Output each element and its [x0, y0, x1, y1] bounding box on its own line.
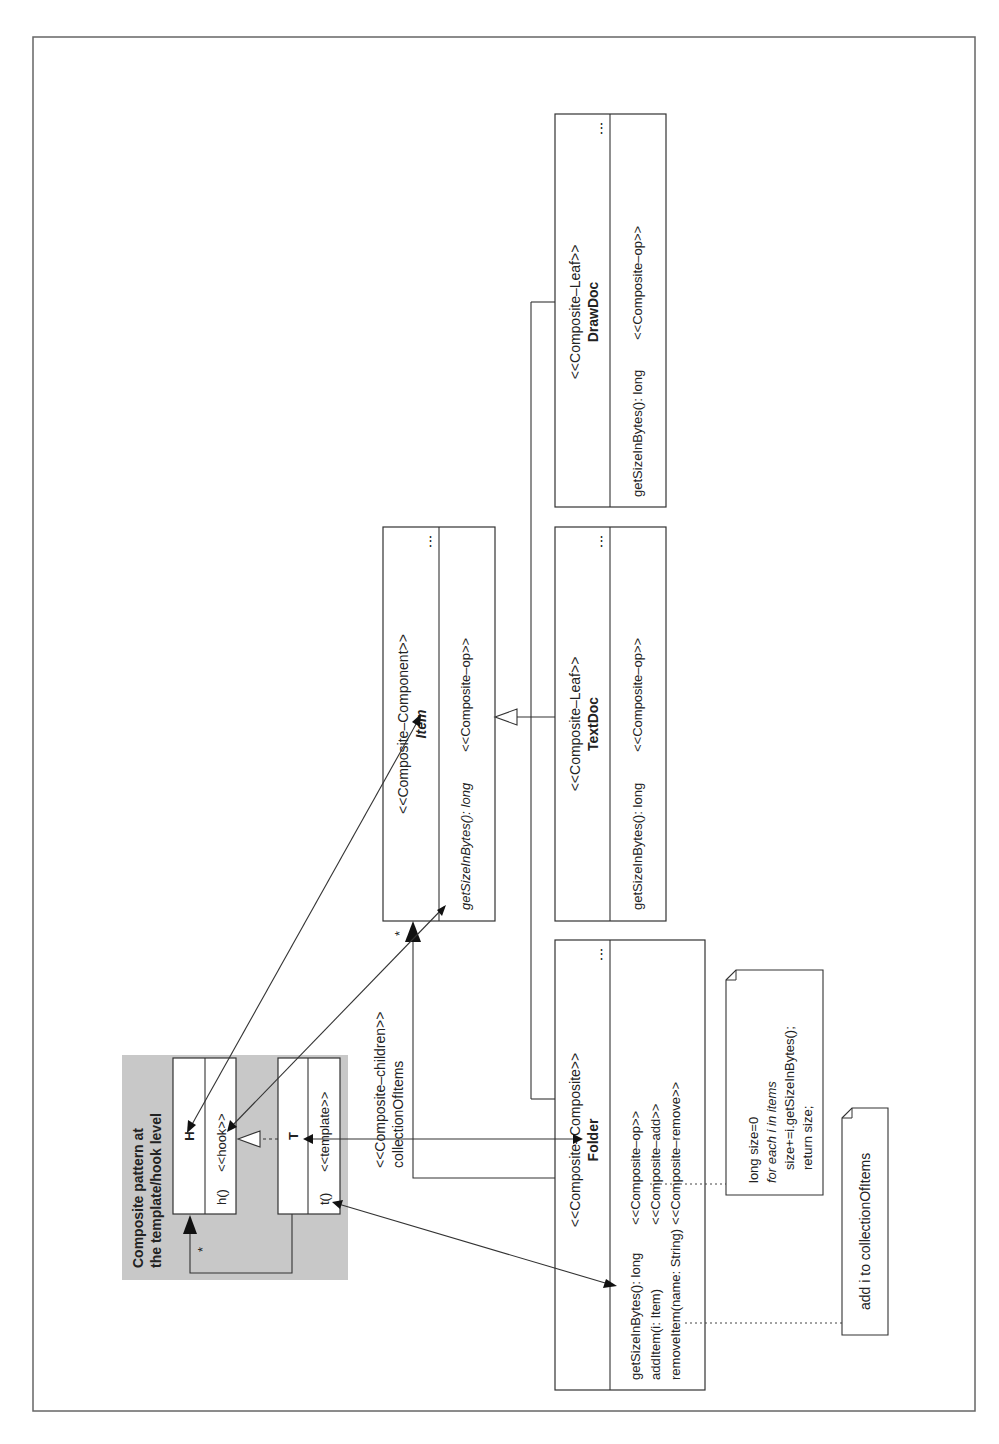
textdoc-operation: getSizeInBytes(): long — [630, 783, 645, 910]
template-class-name: T — [286, 1132, 301, 1140]
panel-title-line2: the template/hook level — [148, 1113, 164, 1268]
class-folder[interactable]: <<Composite–Composite>> Folder ⋮ getSize… — [555, 940, 705, 1390]
folder-op-3: removeItem(name: String) — [668, 1229, 683, 1380]
template-method: t() — [317, 1193, 332, 1205]
panel-title-line1: Composite pattern at — [130, 1128, 146, 1268]
folder-op-1-stereotype: <<Composite–op>> — [628, 1111, 643, 1225]
note-size-line3: size+=i.getSizeInBytes(); — [782, 1026, 797, 1170]
hook-stereotype: <<hook>> — [214, 1113, 229, 1172]
drawdoc-operation: getSizeInBytes(): long — [630, 370, 645, 497]
drawdoc-class-name: DrawDoc — [585, 281, 601, 342]
hook-method: h() — [214, 1189, 229, 1205]
folder-op-2: addItem(i: Item) — [648, 1289, 663, 1380]
folder-op-1: getSizeInBytes(): long — [628, 1253, 643, 1380]
folder-op-3-stereotype: <<Composite–remove>> — [668, 1082, 683, 1225]
generalization-triangle-icon — [495, 709, 517, 725]
item-stereotype: <<Composite–Component>> — [395, 634, 411, 814]
folder-op-2-stereotype: <<Composite–add>> — [648, 1104, 663, 1225]
note-add-text: add i to collectionOfItems — [857, 1153, 873, 1310]
hook-multiplicity: * — [195, 1247, 210, 1252]
note-size-line2: for each i in items — [764, 1081, 779, 1183]
children-multiplicity: * — [392, 931, 407, 936]
textdoc-ellipsis: ⋮ — [595, 533, 608, 548]
drawdoc-operation-stereotype: <<Composite–op>> — [630, 226, 645, 340]
drawdoc-stereotype: <<Composite–Leaf>> — [567, 245, 583, 380]
hook-class[interactable]: H h() <<hook>> — [173, 1058, 236, 1214]
children-stereotype: <<Composite–children>> — [372, 1012, 388, 1168]
item-ellipsis: ⋮ — [424, 533, 437, 548]
textdoc-stereotype: <<Composite–Leaf>> — [567, 657, 583, 792]
template-hook-panel: Composite pattern at the template/hook l… — [122, 1055, 348, 1280]
class-textdoc[interactable]: <<Composite–Leaf>> TextDoc ⋮ getSizeInBy… — [555, 527, 666, 921]
textdoc-operation-stereotype: <<Composite–op>> — [630, 638, 645, 752]
children-role: collectionOfItems — [390, 1061, 406, 1168]
note-size-line4: return size; — [800, 1106, 815, 1170]
note-size-line1: long size=0 — [746, 1117, 761, 1183]
generalization-hierarchy — [495, 302, 555, 1099]
uml-diagram: Composite pattern at the template/hook l… — [0, 0, 999, 1444]
class-item[interactable]: <<Composite–Component>> Item ⋮ getSizeIn… — [383, 527, 495, 921]
folder-class-name: Folder — [585, 1118, 601, 1161]
textdoc-class-name: TextDoc — [585, 697, 601, 751]
folder-ellipsis: ⋮ — [595, 946, 608, 961]
class-drawdoc[interactable]: <<Composite–Leaf>> DrawDoc ⋮ getSizeInBy… — [555, 114, 666, 507]
drawdoc-ellipsis: ⋮ — [595, 120, 608, 135]
item-operation-stereotype: <<Composite–op>> — [458, 638, 473, 752]
template-stereotype: <<template>> — [317, 1092, 332, 1172]
item-operation: getSizeInBytes(): long — [458, 782, 473, 910]
hook-class-name: H — [182, 1131, 197, 1140]
